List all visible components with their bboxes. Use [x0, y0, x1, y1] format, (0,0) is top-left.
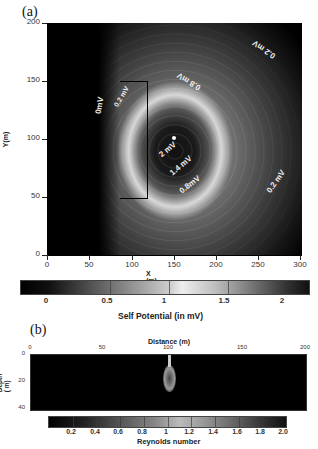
colorbar-tick-label: 1.6 [225, 428, 249, 435]
x-tick-label: 200 [204, 260, 228, 269]
source-point-marker [172, 136, 176, 140]
colorbar-tick [144, 417, 145, 427]
colorbar-tick [168, 417, 169, 427]
colorbar-tick-label: 1.8 [248, 428, 272, 435]
colorbar-tick-label: 1.2 [177, 428, 201, 435]
colorbar-tick [110, 281, 111, 294]
colorbar-tick-label: 2 [270, 296, 294, 305]
colorbar-tick-label: 0.2 [59, 428, 83, 435]
colorbar-tick-label: 2.0 [271, 428, 295, 435]
colorbar-tick [73, 417, 74, 427]
y-tick-label: 40 [3, 404, 25, 410]
colorbar-tick-label: 0.4 [83, 428, 107, 435]
colorbar-tick-label: 0.6 [106, 428, 130, 435]
colorbar-tick [120, 417, 121, 427]
colorbar-tick [96, 417, 97, 427]
colorbar-tick [215, 417, 216, 427]
y-axis-title-b: Depth ( m) [0, 374, 10, 392]
y-tick-label: 0 [18, 249, 40, 258]
x-tick-label: 50 [90, 344, 114, 350]
y-tick-label: 200 [18, 17, 40, 26]
colorbar-tick-label: 1 [152, 296, 176, 305]
x-tick-label: 100 [156, 344, 180, 350]
colorbar-tick-label: 1.4 [201, 428, 225, 435]
x-tick-label: 50 [77, 260, 101, 269]
colorbar-tick [239, 417, 240, 427]
colorbar-tick-label: 1 [154, 428, 178, 435]
colorbar-tick [262, 417, 263, 427]
colorbar-a-title: Self Potential (in mV) [118, 311, 203, 321]
y-tick-label: 0 [3, 350, 25, 356]
y-tick-label: 150 [18, 75, 40, 84]
self-potential-colorbar [20, 280, 310, 295]
colorbar-tick-label: 0.5 [95, 296, 119, 305]
reynolds-colorbar [48, 416, 287, 428]
x-tick-label: 250 [246, 260, 270, 269]
colorbar-tick-label: 0 [34, 296, 58, 305]
x-tick-label: 100 [120, 260, 144, 269]
colorbar-tick [191, 417, 192, 427]
colorbar-b-title: Reynolds number [137, 437, 200, 446]
x-tick-label: 150 [162, 260, 186, 269]
anomaly-conduit [168, 355, 171, 367]
panel-b-label: (b) [30, 322, 46, 338]
x-tick-label: 150 [230, 344, 254, 350]
self-potential-heatmap: 0mV 0.2 mV 0.8 mV 0.2 mV 2 mV 1.4 mV 0.8… [47, 23, 302, 256]
reynolds-number-section [30, 354, 307, 411]
colorbar-tick-label: 0.8 [130, 428, 154, 435]
y-axis-title: Y(m) [2, 132, 9, 148]
anomaly-plume [163, 365, 176, 392]
y-tick-label: 100 [18, 133, 40, 142]
x-tick-label: 300 [288, 260, 312, 269]
survey-rectangle [120, 81, 148, 199]
x-tick-label: 0 [35, 260, 59, 269]
y-tick-label: 50 [18, 191, 40, 200]
low-potential-region [48, 23, 120, 255]
x-tick-label: 200 [293, 344, 317, 350]
colorbar-tick-label: 1.5 [212, 296, 236, 305]
colorbar-tick [169, 281, 170, 294]
colorbar-tick [228, 281, 229, 294]
